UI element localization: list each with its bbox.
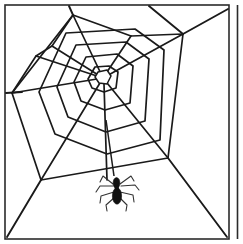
spider-web-drawing xyxy=(0,0,243,244)
web-hub xyxy=(95,70,111,84)
spider-pedicel xyxy=(115,186,118,190)
background xyxy=(0,0,243,244)
illustration-canvas: Spider Web with Hanging Spider hanging s… xyxy=(0,0,243,244)
